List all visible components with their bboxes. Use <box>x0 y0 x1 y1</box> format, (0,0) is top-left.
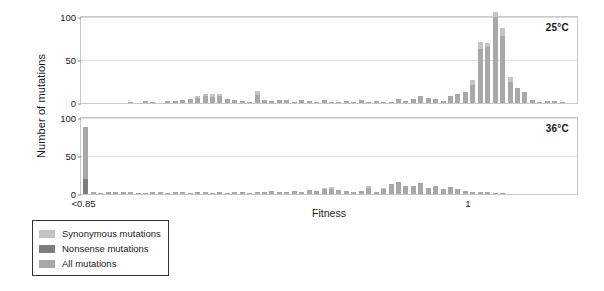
legend-label-nonsense: Nonsense mutations <box>62 243 149 254</box>
histogram-bar <box>441 189 446 194</box>
histogram-bar <box>158 192 163 194</box>
histogram-bar <box>344 101 349 103</box>
bar-segment-all <box>314 191 319 194</box>
bar-segment-all <box>225 193 230 194</box>
histogram-bar <box>374 192 379 194</box>
bar-segment-all <box>136 193 141 194</box>
histogram-bar <box>411 186 416 194</box>
bar-segment-all <box>403 101 408 103</box>
histogram-bar <box>493 11 498 103</box>
bar-segment-all <box>225 99 230 103</box>
histogram-bar <box>322 187 327 194</box>
legend-item-all: All mutations <box>39 256 162 271</box>
bar-segment-all <box>188 99 193 103</box>
bar-segment-all <box>463 191 468 194</box>
histogram-bar <box>225 99 230 103</box>
bar-segment-all <box>366 188 371 194</box>
histogram-bar <box>411 99 416 103</box>
histogram-bar <box>389 102 394 103</box>
histogram-bar <box>284 100 289 103</box>
bar-segment-all <box>143 193 148 194</box>
histogram-bar <box>203 192 208 194</box>
histogram-bar <box>292 191 297 194</box>
bar-segment-all <box>150 102 155 103</box>
histogram-bar <box>195 95 200 103</box>
bar-segment-all <box>478 49 483 103</box>
histogram-bar <box>128 102 133 103</box>
histogram-bar <box>351 192 356 194</box>
histogram-bar <box>396 182 401 194</box>
bar-segment-all <box>522 92 527 103</box>
bar-segment-all <box>299 100 304 103</box>
histogram-bar <box>91 192 96 194</box>
fitness-mutation-histogram-figure: Number of mutations 25°C 050100 36°C 050… <box>0 0 604 291</box>
histogram-bar <box>247 102 252 103</box>
bar-segment-all <box>381 102 386 103</box>
bar-segment-all <box>441 189 446 194</box>
histogram-bar <box>180 100 185 103</box>
bar-segment-all <box>374 101 379 103</box>
bar-segment-all <box>203 96 208 103</box>
bar-segment-all <box>98 193 103 194</box>
histogram-bar <box>448 187 453 194</box>
bar-segment-all <box>381 189 386 194</box>
bar-segment-all <box>389 184 394 194</box>
histogram-bar <box>173 192 178 194</box>
histogram-bar <box>284 192 289 194</box>
histogram-bar <box>508 76 513 103</box>
bar-segment-all <box>277 100 282 103</box>
histogram-bar <box>403 186 408 194</box>
bar-segment-all <box>329 189 334 194</box>
histogram-bar <box>188 193 193 194</box>
y-tick-label: 50 <box>65 55 81 66</box>
bar-segment-all <box>336 102 341 103</box>
histogram-bar <box>493 193 498 194</box>
y-axis-title: Number of mutations <box>35 16 47 196</box>
histogram-bar <box>336 190 341 194</box>
bar-segment-all <box>344 101 349 103</box>
histogram-bar <box>240 101 245 103</box>
gridline <box>81 156 577 157</box>
bar-segment-all <box>359 191 364 194</box>
histogram-bar <box>240 192 245 194</box>
bar-segment-all <box>500 193 505 194</box>
histogram-bar <box>515 88 520 103</box>
bar-segment-all <box>158 192 163 194</box>
histogram-bar <box>314 191 319 194</box>
histogram-bar <box>210 93 215 103</box>
bar-segment-all <box>284 192 289 194</box>
bar-segment-all <box>493 193 498 194</box>
histogram-bar <box>150 102 155 103</box>
histogram-bar <box>381 187 386 194</box>
histogram-bar <box>552 101 557 103</box>
bar-segment-all <box>448 187 453 194</box>
panel-36c-plot-area <box>81 118 577 194</box>
histogram-bar <box>165 101 170 103</box>
bar-segment-all <box>307 101 312 103</box>
histogram-bar <box>366 185 371 194</box>
bar-segment-all <box>418 183 423 194</box>
bar-segment-synonymous <box>500 27 505 36</box>
histogram-bar <box>478 41 483 103</box>
bar-segment-all <box>83 127 88 179</box>
histogram-bar <box>426 188 431 194</box>
bar-segment-all <box>217 96 222 103</box>
bar-segment-all <box>173 101 178 103</box>
bar-segment-all <box>329 102 334 103</box>
bar-segment-all <box>262 192 267 194</box>
bar-segment-all <box>537 102 542 103</box>
bar-segment-all <box>448 96 453 103</box>
bar-segment-all <box>426 188 431 194</box>
histogram-bar <box>83 127 88 194</box>
y-tick-label: 100 <box>60 12 81 23</box>
bar-segment-all <box>247 102 252 103</box>
histogram-bar <box>537 102 542 103</box>
histogram-bar <box>560 102 565 103</box>
histogram-bar <box>307 101 312 103</box>
histogram-bar <box>336 102 341 103</box>
histogram-bar <box>136 193 141 194</box>
bar-segment-all <box>470 192 475 194</box>
histogram-bar <box>188 99 193 103</box>
histogram-bar <box>545 101 550 103</box>
histogram-bar <box>121 192 126 194</box>
